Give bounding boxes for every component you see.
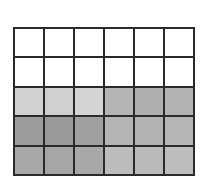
- grid-cell-r4-c6: [165, 117, 193, 144]
- grid-cell-r5-c3: [75, 147, 103, 174]
- grid-cell-r3-c2: [45, 88, 73, 115]
- grid-cell-r3-c5: [135, 88, 163, 115]
- grid-cell-r4-c5: [135, 117, 163, 144]
- grid-cell-r4-c4: [105, 117, 133, 144]
- grid-cell-r2-c2: [45, 58, 73, 85]
- grid-cell-r5-c2: [45, 147, 73, 174]
- grid-cell-r5-c6: [165, 147, 193, 174]
- grid-cell-r3-c4: [105, 88, 133, 115]
- grid-cell-r1-c2: [45, 29, 73, 56]
- grid-cell-r1-c1: [15, 29, 43, 56]
- grid-cell-r2-c3: [75, 58, 103, 85]
- grid-cell-r2-c4: [105, 58, 133, 85]
- grid-cell-r5-c1: [15, 147, 43, 174]
- grid-cell-r4-c3: [75, 117, 103, 144]
- shaded-grid: [13, 27, 195, 176]
- grid-cell-r1-c3: [75, 29, 103, 56]
- grid-cell-r3-c6: [165, 88, 193, 115]
- grid-cell-r3-c1: [15, 88, 43, 115]
- grid-cell-r1-c4: [105, 29, 133, 56]
- grid-cell-r5-c5: [135, 147, 163, 174]
- grid-cell-r3-c3: [75, 88, 103, 115]
- grid-cell-r2-c6: [165, 58, 193, 85]
- grid-cell-r2-c5: [135, 58, 163, 85]
- grid-cell-r5-c4: [105, 147, 133, 174]
- grid-cell-r4-c2: [45, 117, 73, 144]
- grid-cell-r1-c6: [165, 29, 193, 56]
- grid-cell-r4-c1: [15, 117, 43, 144]
- grid-cell-r2-c1: [15, 58, 43, 85]
- grid-cell-r1-c5: [135, 29, 163, 56]
